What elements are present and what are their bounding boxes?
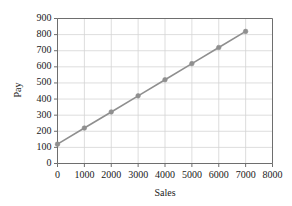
y-axis-title: Pay — [13, 78, 23, 102]
y-tick-label: 900 — [37, 13, 52, 23]
y-tick-label: 700 — [37, 45, 52, 55]
y-tick-label: 600 — [37, 61, 52, 71]
vertical-gridlines — [84, 19, 245, 164]
y-tick-label: 0 — [47, 158, 52, 168]
x-axis-ticks — [58, 164, 273, 168]
data-point-marker — [109, 110, 114, 115]
data-point-marker — [190, 61, 195, 66]
y-tick-label: 400 — [37, 94, 52, 104]
y-tick-label: 100 — [37, 142, 52, 152]
data-point-marker — [136, 94, 141, 99]
data-point-marker — [55, 142, 60, 147]
x-tick-label: 8000 — [253, 170, 292, 180]
data-point-marker — [243, 29, 248, 34]
y-tick-label: 300 — [37, 110, 52, 120]
y-tick-label: 800 — [37, 29, 52, 39]
data-point-marker — [163, 77, 168, 82]
y-tick-label: 500 — [37, 77, 52, 87]
chart-figure: 0100200300400500600700800900 01000200030… — [0, 0, 291, 206]
x-axis-title: Sales — [125, 188, 205, 198]
data-point-marker — [82, 126, 87, 131]
y-tick-label: 200 — [37, 126, 52, 136]
data-point-marker — [216, 45, 221, 50]
